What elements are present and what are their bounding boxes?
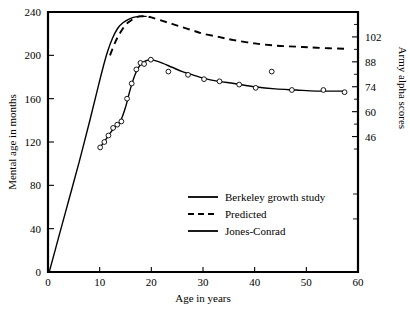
y-tick-left-label: 200 (25, 49, 42, 61)
y-axis-left-ticks: 04080120160200240 (25, 6, 55, 278)
data-point-marker (289, 88, 294, 93)
data-point-marker (186, 72, 191, 77)
y-tick-right-label: 74 (365, 81, 377, 93)
y-tick-right-label: 88 (365, 56, 377, 68)
data-point-marker (129, 81, 134, 86)
y-axis-title-right: Army alpha scores (397, 47, 409, 129)
series-line-2 (50, 16, 147, 271)
data-point-marker (148, 57, 153, 62)
x-tick-label: 20 (146, 276, 158, 288)
data-point-marker (342, 90, 347, 95)
x-axis-title: Age in years (175, 292, 231, 304)
legend-label-1: Predicted (225, 208, 267, 220)
data-point-marker (134, 67, 139, 72)
mental-age-chart: 0102030405060 04080120160200240 46607488… (0, 0, 410, 311)
plot-border (48, 12, 358, 272)
y-tick-right-label: 60 (365, 106, 377, 118)
data-point-marker (125, 96, 130, 101)
data-point-marker (321, 88, 326, 93)
y-axis-right-ticks: 46607488102 (352, 24, 382, 218)
axis-titles: Age in yearsMental age in monthsArmy alp… (6, 47, 409, 304)
series-line-0 (100, 60, 344, 148)
chart-page: 0102030405060 04080120160200240 46607488… (0, 0, 410, 311)
data-point-marker (102, 140, 107, 145)
x-tick-label: 10 (94, 276, 106, 288)
x-axis-ticks: 0102030405060 (45, 267, 364, 288)
data-point-marker (202, 77, 207, 82)
y-tick-left-label: 120 (25, 136, 42, 148)
x-tick-label: 30 (198, 276, 210, 288)
y-tick-left-label: 160 (25, 93, 42, 105)
data-point-markers (98, 57, 347, 150)
data-point-marker (253, 85, 258, 90)
data-point-marker (119, 119, 124, 124)
data-point-marker (142, 62, 147, 67)
data-point-marker (106, 133, 111, 138)
data-point-marker (237, 82, 242, 87)
chart-legend: Berkeley growth studyPredictedJones-Conr… (188, 191, 326, 237)
data-point-marker (98, 145, 103, 150)
y-tick-left-label: 80 (30, 179, 42, 191)
x-tick-label: 60 (353, 276, 365, 288)
data-point-marker (166, 69, 171, 74)
data-point-marker (217, 79, 222, 84)
y-tick-right-label: 46 (365, 131, 377, 143)
data-point-marker (269, 69, 274, 74)
y-axis-title-left: Mental age in months (6, 94, 18, 190)
series-line-1 (110, 16, 345, 55)
y-tick-left-label: 40 (30, 223, 42, 235)
data-point-marker (111, 126, 116, 131)
y-tick-left-label: 240 (25, 6, 42, 18)
legend-label-0: Berkeley growth study (225, 191, 326, 203)
series-layer (50, 16, 345, 271)
x-tick-label: 0 (45, 276, 51, 288)
legend-label-2: Jones-Conrad (225, 225, 286, 237)
y-tick-left-label: 0 (36, 266, 42, 278)
x-tick-label: 50 (301, 276, 313, 288)
y-tick-right-label: 102 (365, 31, 382, 43)
data-point-marker (115, 122, 120, 127)
plot-frame (48, 12, 358, 272)
x-tick-label: 40 (249, 276, 261, 288)
